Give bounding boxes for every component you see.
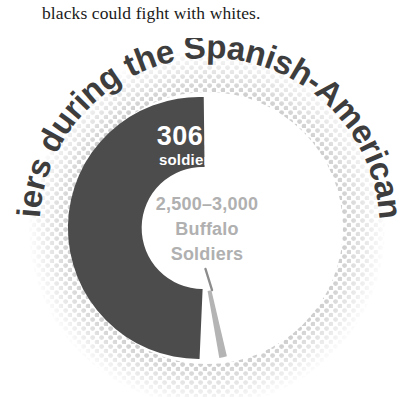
total-caption-label: soldiers total (159, 151, 255, 168)
body-text-line: blacks could fight with whites. (42, 0, 392, 26)
total-value-label: 306,760 (157, 121, 257, 151)
donut-chart-infographic: Soldiers during the Spanish-American War… (0, 38, 415, 397)
subset-value-label: 2,500–3,000 (156, 194, 258, 214)
subset-name-line-1: Buffalo (175, 219, 238, 239)
subset-name-line-2: Soldiers (171, 244, 244, 264)
infographic-page: blacks could fight with whites. (0, 0, 415, 397)
